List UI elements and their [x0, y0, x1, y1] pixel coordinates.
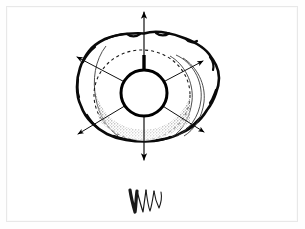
- figure-illustration: [0, 0, 305, 229]
- central-circle: [121, 70, 167, 116]
- handwritten-signature-mark: [130, 190, 161, 212]
- screenshot-root: [0, 0, 305, 229]
